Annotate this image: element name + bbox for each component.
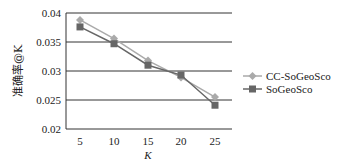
square-marker xyxy=(77,23,84,30)
y-axis-label: 准确率@K xyxy=(11,44,25,97)
x-tick-label: 5 xyxy=(77,135,83,147)
x-axis-label: K xyxy=(143,149,152,161)
x-tick-label: 15 xyxy=(143,135,155,147)
y-tick-label: 0.02 xyxy=(42,123,61,135)
x-tick-label: 10 xyxy=(109,135,121,147)
square-marker xyxy=(111,40,118,47)
y-tick-label: 0.03 xyxy=(42,65,62,77)
series-lines xyxy=(76,16,219,109)
y-tick-label: 0.025 xyxy=(36,94,61,106)
legend-square-icon xyxy=(249,86,256,93)
diamond-marker xyxy=(76,16,84,24)
legend-label: SoGeoSco xyxy=(266,83,313,95)
x-tick-label: 20 xyxy=(176,135,188,147)
legend: CC-SoGeoScoSoGeoSco xyxy=(243,70,331,95)
legend-label: CC-SoGeoSco xyxy=(266,70,331,82)
y-tick-label: 0.035 xyxy=(36,36,61,48)
square-marker xyxy=(212,102,219,109)
square-marker xyxy=(145,62,152,69)
x-axis-ticks: 510152025 xyxy=(77,135,221,147)
square-marker xyxy=(178,72,185,79)
y-tick-label: 0.04 xyxy=(42,7,62,19)
x-tick-label: 25 xyxy=(210,135,222,147)
gridlines xyxy=(66,13,232,129)
y-axis-ticks: 0.040.0350.030.0250.02 xyxy=(36,7,61,135)
line-chart: 0.040.0350.030.0250.02 510152025 准确率@K K… xyxy=(0,0,341,165)
legend-diamond-icon xyxy=(249,72,257,80)
